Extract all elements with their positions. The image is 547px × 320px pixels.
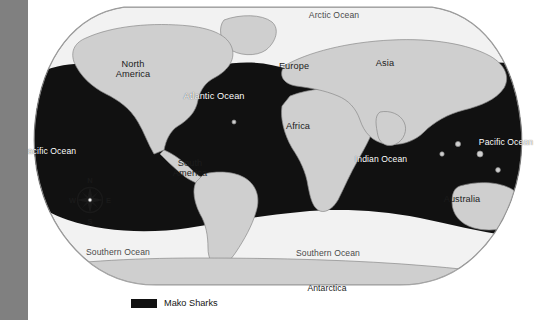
map-screenshot: Arctic Ocean NorthAmerica Europe Asia At… bbox=[0, 0, 547, 320]
land-island-d bbox=[455, 141, 460, 146]
land-island-e bbox=[232, 120, 236, 124]
compass-graphic: N S W E bbox=[66, 174, 114, 226]
land-island-a bbox=[477, 151, 483, 157]
map-graphic bbox=[28, 4, 528, 288]
land-island-c bbox=[440, 152, 444, 156]
land-australia bbox=[452, 183, 524, 230]
compass-west-label: W bbox=[69, 196, 77, 205]
land-island-b bbox=[496, 168, 501, 173]
map-legend: Mako Sharks bbox=[131, 298, 218, 308]
compass-center bbox=[88, 198, 92, 202]
world-map bbox=[28, 4, 528, 288]
compass-east-label: E bbox=[106, 196, 111, 205]
legend-label-mako-sharks: Mako Sharks bbox=[164, 298, 218, 308]
compass-rose: N S W E bbox=[66, 174, 114, 226]
compass-south-label: S bbox=[87, 217, 92, 226]
left-gray-bar bbox=[0, 0, 28, 320]
compass-north-label: N bbox=[87, 176, 92, 185]
legend-swatch-mako-sharks bbox=[131, 299, 157, 308]
